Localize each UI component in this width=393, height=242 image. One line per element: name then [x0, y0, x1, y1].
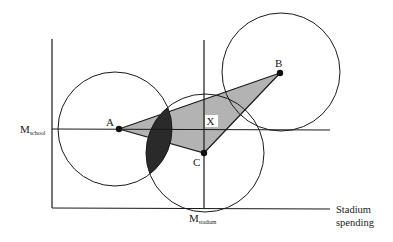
m-school-label: Mschool	[20, 123, 46, 136]
ideal-point-b	[277, 70, 283, 76]
triangle-abc	[119, 73, 280, 153]
ideal-point-a	[116, 126, 122, 132]
x-axis-label-line1: Stadium	[336, 204, 371, 215]
point-b-label: B	[275, 57, 282, 69]
median-point-x-label: X	[207, 115, 215, 127]
median-school-line	[52, 129, 330, 130]
spatial-voting-diagram: X A B C Mschool Mstadium Stadium spendin…	[0, 0, 393, 242]
point-c-label: C	[193, 156, 200, 168]
ideal-point-c	[201, 150, 207, 156]
x-axis	[52, 208, 330, 209]
m-stadium-label: Mstadium	[189, 212, 217, 225]
x-axis-label-line2: spending	[336, 217, 375, 228]
point-a-label: A	[106, 116, 114, 128]
